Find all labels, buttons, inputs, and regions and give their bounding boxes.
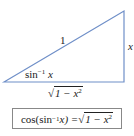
triangle-shape xyxy=(4,11,124,82)
angle-label: sin−1 x xyxy=(25,69,53,80)
identity-lhs: cos(sin xyxy=(21,113,52,125)
identity-box: cos(sin−1 x) = √1 − x2 xyxy=(12,108,122,129)
hypotenuse-label: 1 xyxy=(60,35,66,46)
right-triangle xyxy=(0,0,134,100)
opposite-side-label: x xyxy=(128,41,133,52)
adjacent-side-label: √1 − x2 xyxy=(48,88,83,99)
